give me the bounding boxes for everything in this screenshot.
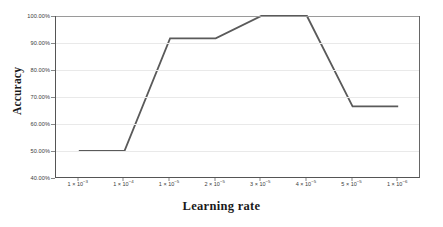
y-axis-tick-label: 90.00% <box>6 40 50 46</box>
y-axis-tick-label: 50.00% <box>6 148 50 154</box>
y-axis-tick-label: 100.00% <box>6 13 50 19</box>
x-axis-tick-mark <box>169 178 170 181</box>
chart-figure: Accuracy 100.00%90.00%80.00%70.00%60.00%… <box>0 0 443 227</box>
gridline <box>56 70 419 71</box>
x-axis-tick-mark <box>260 178 261 181</box>
x-axis-tick-label: 1 × 10−5 <box>159 181 179 187</box>
x-axis-tick-mark <box>351 178 352 181</box>
gridline <box>56 151 419 152</box>
x-axis-tick-labels: 1 × 10−31 × 10−41 × 10−52 × 10−53 × 10−5… <box>55 181 420 195</box>
plot-area <box>55 16 420 178</box>
y-axis-tick-label: 80.00% <box>6 67 50 73</box>
gridline <box>56 16 419 17</box>
gridline <box>56 97 419 98</box>
x-axis-tick-label: 1 × 10−6 <box>387 181 407 187</box>
y-axis-tick-label: 70.00% <box>6 94 50 100</box>
y-axis-tick-mark <box>51 178 55 179</box>
gridline <box>56 43 419 44</box>
x-axis-tick-mark <box>305 178 306 181</box>
x-axis-tick-label: 2 × 10−5 <box>204 181 224 187</box>
x-axis-tick-label: 4 × 10−5 <box>296 181 316 187</box>
x-axis-tick-label: 1 × 10−3 <box>68 181 88 187</box>
x-axis-tick-label: 5 × 10−5 <box>341 181 361 187</box>
gridline <box>56 124 419 125</box>
x-axis-tick-label: 3 × 10−5 <box>250 181 270 187</box>
x-axis-tick-mark <box>123 178 124 181</box>
y-axis-tick-label: 40.00% <box>6 175 50 181</box>
x-axis-title: Learning rate <box>0 199 443 214</box>
x-axis-tick-label: 1 × 10−4 <box>113 181 133 187</box>
x-axis-tick-mark <box>77 178 78 181</box>
x-axis-tick-mark <box>214 178 215 181</box>
y-axis-tick-label: 60.00% <box>6 121 50 127</box>
x-axis-tick-mark <box>397 178 398 181</box>
